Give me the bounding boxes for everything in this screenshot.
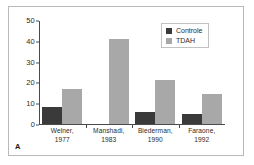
bar-tdah (109, 39, 129, 124)
figure-panel: 01020304050 Welner,1977Manshadi,1983Bied… (8, 6, 244, 156)
bar-tdah (62, 89, 82, 124)
legend-entry-controle: Controle (166, 27, 202, 34)
bar-group (86, 21, 133, 124)
x-axis-label: Welner,1977 (39, 127, 86, 144)
bar-tdah (155, 80, 175, 124)
legend-label-tdah: TDAH (176, 37, 195, 44)
legend-swatch-tdah (166, 38, 172, 44)
y-tick-label-40: 40 (26, 38, 35, 46)
bar-tdah (202, 94, 222, 124)
y-tick-label-10: 10 (26, 100, 35, 108)
x-axis-label: Manshadi,1983 (86, 127, 133, 144)
y-tick-label-30: 30 (26, 59, 35, 67)
bar-group (39, 21, 86, 124)
x-axis-label: Faraone,1992 (179, 127, 226, 144)
y-tick-label-50: 50 (26, 17, 35, 25)
bar-controle (182, 114, 202, 124)
x-axis-labels: Welner,1977Manshadi,1983Biederman,1990Fa… (39, 127, 225, 144)
panel-label: A (15, 142, 20, 151)
chart-legend: Controle TDAH (161, 23, 209, 48)
x-axis-label: Biederman,1990 (132, 127, 179, 144)
bar-controle (42, 107, 62, 124)
y-tick-label-20: 20 (26, 80, 35, 88)
y-tick-mark-0 (36, 125, 39, 126)
legend-entry-tdah: TDAH (166, 37, 202, 44)
bar-controle (135, 112, 155, 124)
y-tick-label-0: 0 (31, 121, 35, 129)
legend-label-controle: Controle (176, 27, 202, 34)
legend-swatch-controle (166, 28, 172, 34)
